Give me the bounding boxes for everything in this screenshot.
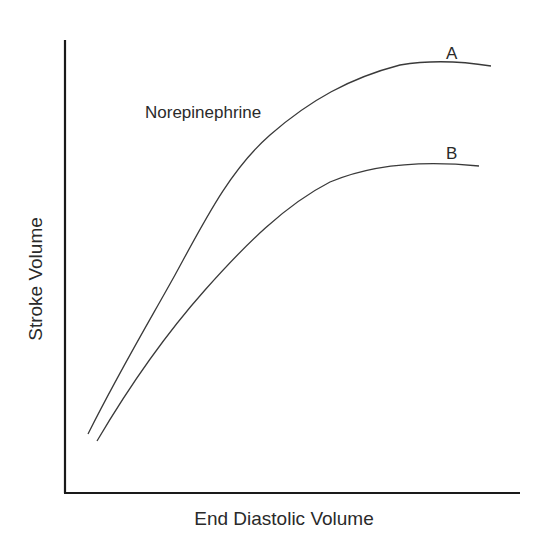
chart-canvas: Norepinephrine A B End Diastolic Volume … bbox=[0, 0, 542, 536]
x-axis-label: End Diastolic Volume bbox=[194, 508, 374, 529]
y-axis-label: Stroke Volume bbox=[25, 217, 46, 341]
curve-b bbox=[97, 164, 479, 441]
curve-b-label: B bbox=[446, 144, 457, 163]
norepinephrine-annotation: Norepinephrine bbox=[145, 103, 261, 122]
curve-a-label: A bbox=[446, 44, 458, 63]
